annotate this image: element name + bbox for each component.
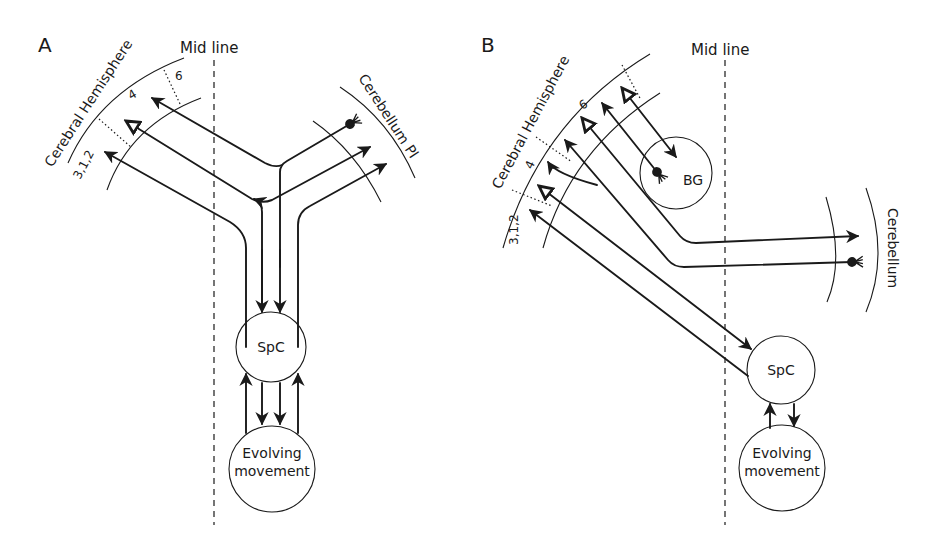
- motor-control-diagram: A Mid line Cerebral Hemisphere 3,1,2 4 6…: [0, 0, 933, 540]
- panel-a-midline-label: Mid line: [180, 39, 238, 57]
- panel-b-bg-label: BG: [683, 172, 703, 188]
- panel-a-evolving-label-2: movement: [234, 463, 310, 479]
- panel-a-path-down-to-spc-1: [254, 199, 262, 303]
- panel-a-path-to-area4: [152, 98, 282, 166]
- panel-b-cerebellum-label: Cerebellum: [885, 208, 901, 288]
- panel-a-cerebellum-inner-arc: [313, 121, 381, 202]
- panel-b-path-cerebellum-to-area4: [565, 140, 852, 267]
- panel-a-cerebral-label: Cerebral Hemisphere: [41, 36, 135, 169]
- panel-b-path-spc-to-area312: [530, 210, 748, 376]
- panel-a-path-cerebellum-to-spc-core: [280, 124, 350, 267]
- panel-a-divider-312-4: [99, 119, 132, 148]
- panel-b-cerebral-inner-arc: [543, 93, 660, 248]
- panel-a-spc-label: SpC: [257, 339, 285, 355]
- panel-b-area-4: 4: [522, 158, 538, 171]
- panel-b-path-area6-bg: [622, 88, 676, 157]
- panel-b-area-312: 3,1,2: [507, 214, 521, 245]
- panel-a-area-6: 6: [175, 69, 183, 83]
- panel-b: B Mid line Cerebral Hemisphere 3,1,2 4 6…: [481, 33, 901, 525]
- panel-a-path-spc-to-cerebellum: [298, 164, 386, 347]
- panel-a-letter: A: [38, 33, 52, 57]
- panel-b-cerebellum-outer-arc: [866, 188, 878, 312]
- panel-b-cerebellum-inner-arc: [826, 197, 836, 302]
- panel-b-spc-label: SpC: [767, 362, 795, 378]
- panel-a-cerebellum-label: Cerebellum Pl: [355, 71, 421, 161]
- panel-a-area-4: 4: [126, 87, 140, 103]
- panel-a-area-312: 3,1,2: [70, 148, 97, 182]
- panel-a-cerebral-inner-arc: [107, 98, 201, 190]
- panel-b-path-area6-to-cerebellum: [582, 118, 858, 243]
- panel-b-area-6: 6: [577, 97, 591, 113]
- panel-b-evolving-label-2: movement: [744, 463, 820, 479]
- panel-a-evolving-label-1: Evolving: [242, 445, 302, 461]
- panel-b-cerebral-outer-arc: [503, 54, 650, 248]
- panel-b-midline-label: Mid line: [691, 41, 749, 59]
- panel-b-branch-to-area4: [548, 162, 597, 185]
- panel-b-evolving-label-1: Evolving: [752, 445, 812, 461]
- panel-b-path-bg-to-area6: [602, 103, 657, 172]
- panel-b-path-area4-spc: [539, 186, 751, 349]
- panel-b-letter: B: [481, 33, 495, 57]
- panel-a: A Mid line Cerebral Hemisphere 3,1,2 4 6…: [38, 33, 422, 525]
